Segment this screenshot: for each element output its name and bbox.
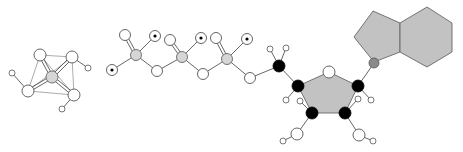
nitrogen-atom [369, 58, 379, 68]
molecule-diagram [0, 0, 463, 152]
oxygen-atom [165, 35, 176, 46]
oxygen-atom [211, 33, 222, 44]
charge-dot-icon [153, 34, 156, 37]
charge-dot-icon [199, 36, 202, 39]
hydrogen-atom [59, 106, 65, 112]
hydroxyl-oxygen-atom [291, 128, 303, 140]
carbon-atom [352, 80, 364, 92]
bridge-oxygen-atom [198, 69, 209, 80]
charge-dot-icon [245, 37, 248, 40]
charge-dot-icon [110, 68, 113, 71]
carbon-atom [306, 107, 318, 119]
carbon-atom [292, 80, 304, 92]
carbon-atom [339, 107, 351, 119]
phosphorus-atom [222, 54, 233, 65]
ring-oxygen-atom [323, 66, 335, 78]
hydrogen-atom [9, 70, 15, 76]
hydrogen-atom [370, 138, 376, 144]
oxygen-atom [120, 30, 131, 41]
phosphorus-atom [131, 50, 142, 61]
cluster-center-atom [46, 71, 58, 83]
molecule-svg [0, 0, 463, 152]
carbon-atom [273, 60, 285, 72]
cluster-vertex-atom [66, 51, 78, 63]
cluster-vertex-atom [68, 89, 80, 101]
phosphorus-atom [177, 52, 188, 63]
cluster-vertex-atom [34, 49, 46, 61]
hydrogen-atom [368, 97, 374, 103]
purine-pentagon-ring [354, 11, 400, 62]
hydrogen-atom [85, 65, 91, 71]
hydroxyl-oxygen-atom [353, 129, 365, 141]
hydrogen-atom [355, 96, 361, 102]
bridge-oxygen-atom [245, 73, 256, 84]
cluster-vertex-atom [22, 85, 34, 97]
bridge-oxygen-atom [152, 66, 163, 77]
hydrogen-atom [267, 46, 273, 52]
hydrogen-atom [283, 97, 289, 103]
hydrogen-atom [283, 45, 289, 51]
hydrogen-atom [280, 138, 286, 144]
purine-hexagon-ring [400, 7, 452, 67]
hydrogen-atom [297, 98, 303, 104]
